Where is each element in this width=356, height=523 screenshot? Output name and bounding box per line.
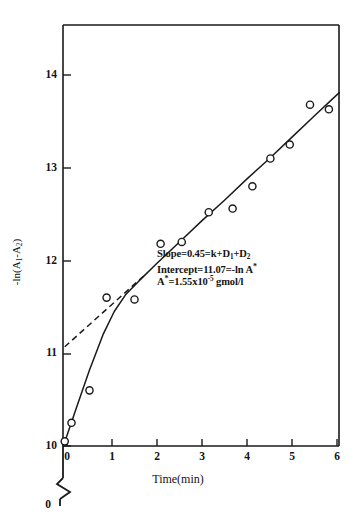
y-axis-title-sub1: 1	[16, 258, 24, 262]
x-tick-label: 4	[237, 450, 257, 462]
x-tick-label: 2	[147, 450, 167, 462]
annotation-line-intercept: Intercept=11.07=-ln A*	[157, 261, 337, 274]
data-point	[306, 101, 313, 108]
annotation-slope-label: Slope	[157, 248, 181, 259]
annotation-intercept-star: *	[253, 262, 257, 271]
data-point	[205, 209, 212, 216]
annotation-slope-sub2: 2	[247, 253, 251, 261]
y-tick-label: 10	[31, 439, 57, 451]
y-axis-title: -ln(A1-A2)	[10, 212, 24, 312]
annotation-line-astar: A*=1.55x10-5 gmol/l	[157, 273, 337, 286]
annotation-slope-eq: =0.45=k+D	[181, 248, 230, 259]
y-tick-label: 13	[31, 161, 57, 173]
x-axis-ticks	[67, 439, 337, 446]
x-tick-label: 1	[102, 450, 122, 462]
data-point	[229, 205, 236, 212]
y-axis-title-mid: -A	[10, 246, 22, 258]
y-axis-ticks	[63, 75, 71, 446]
annotation-slope-plus: +D	[233, 248, 246, 259]
data-point	[103, 294, 110, 301]
y-axis-title-sub2: 2	[16, 243, 24, 247]
x-tick-label: 5	[282, 450, 302, 462]
y-tick-label: 11	[31, 346, 57, 358]
data-point	[157, 240, 164, 247]
y-axis-title-prefix: -ln(A	[10, 261, 22, 285]
annotation-astar-units: gmol/l	[214, 276, 244, 287]
annotation-line-slope: Slope=0.45=k+D1+D2	[157, 248, 337, 261]
data-point	[86, 387, 93, 394]
data-point	[61, 438, 68, 445]
annotation-astar-eq: =1.55x10	[168, 276, 207, 287]
x-tick-label: 6	[327, 450, 347, 462]
data-point	[267, 155, 274, 162]
x-tick-label: 3	[192, 450, 212, 462]
plot-frame	[63, 25, 339, 446]
data-point	[325, 106, 332, 113]
y-axis-title-suffix: )	[10, 239, 22, 243]
dashed-extrapolation-line	[65, 275, 145, 346]
x-axis-title: Time(min)	[0, 472, 356, 487]
y-tick-label: 12	[31, 254, 57, 266]
data-point	[178, 238, 185, 245]
y-tick-label: 14	[31, 68, 57, 80]
data-point	[68, 419, 75, 426]
x-tick-label: 0	[57, 450, 77, 462]
data-point	[286, 141, 293, 148]
annotation-block: Slope=0.45=k+D1+D2 Intercept=11.07=-ln A…	[157, 248, 337, 286]
axis-break-zero-label: 0	[40, 498, 56, 510]
data-point	[131, 296, 138, 303]
data-point	[249, 183, 256, 190]
